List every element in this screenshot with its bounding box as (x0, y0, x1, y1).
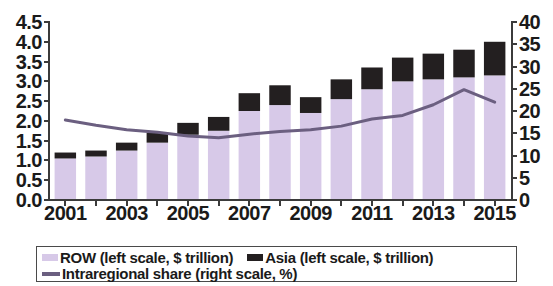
x-axis-tick-mark (279, 201, 281, 206)
x-axis-tick-mark (187, 201, 189, 206)
bar-segment-asia (55, 153, 76, 159)
right-axis-tick-label: 15 (519, 123, 540, 143)
bar-segment-asia (300, 97, 321, 113)
right-axis-tick-label: 5 (519, 168, 530, 188)
bar-segment-asia (392, 58, 413, 82)
x-axis-tick-mark (248, 201, 250, 206)
left-axis-tick-label: 4.0 (16, 32, 42, 52)
x-axis-tick-mark (432, 201, 434, 206)
bar-segment-asia (85, 151, 106, 157)
right-axis-tick-mark (511, 21, 517, 23)
chart-container: 0.00.51.01.52.02.53.03.54.04.5 051015202… (0, 0, 553, 286)
bar-segment-row (392, 81, 413, 200)
x-axis-tick-mark (126, 201, 128, 206)
plot-area (50, 22, 510, 200)
x-axis-tick-mark (371, 201, 373, 206)
legend-label-row: ROW (left scale, $ trillion) (60, 249, 233, 266)
right-axis-tick-mark (511, 132, 517, 134)
left-axis-tick-label: 1.0 (16, 150, 42, 170)
right-axis-tick-mark (511, 155, 517, 157)
bar-segment-asia (423, 54, 444, 80)
bar-segment-asia (116, 143, 137, 151)
bar-segment-row (269, 105, 290, 200)
legend-row-secondary: Intraregional share (right scale, %) (42, 265, 311, 282)
bar-segment-asia (239, 93, 260, 111)
legend-row-primary: ROW (left scale, $ trillion) Asia (left … (42, 249, 447, 266)
right-axis-tick-label: 20 (519, 101, 540, 121)
legend-label-intraregional: Intraregional share (right scale, %) (62, 265, 297, 282)
right-axis-tick-mark (511, 66, 517, 68)
left-axis-tick-label: 0.5 (16, 170, 42, 190)
bar-segment-row (208, 131, 229, 200)
bar-segment-asia (453, 50, 474, 78)
legend-entry-intraregional: Intraregional share (right scale, %) (42, 265, 297, 282)
bar-segment-asia (208, 117, 229, 131)
x-axis-tick-mark (402, 201, 404, 206)
x-axis-tick-mark (95, 201, 97, 206)
legend-entry-asia: Asia (left scale, $ trillion) (247, 249, 433, 266)
x-axis-tick-mark (156, 201, 158, 206)
bar-segment-row (177, 135, 198, 200)
left-axis-tick-label: 2.0 (16, 111, 42, 131)
bar-segment-row (484, 75, 505, 200)
bar-segment-row (453, 77, 474, 200)
x-axis-tick-mark (340, 201, 342, 206)
bar-segment-asia (177, 123, 198, 135)
chart-legend: ROW (left scale, $ trillion) Asia (left … (36, 246, 517, 282)
left-axis-tick-label: 3.0 (16, 71, 42, 91)
bar-segment-row (116, 151, 137, 200)
right-axis-tick-mark (511, 43, 517, 45)
right-axis-line (511, 22, 517, 200)
right-axis-tick-mark (511, 88, 517, 90)
bar-segment-row (300, 113, 321, 200)
bar-segment-row (147, 143, 168, 200)
plot-svg (50, 22, 510, 200)
bar-segment-row (55, 158, 76, 200)
bar-segment-row (423, 79, 444, 200)
right-axis-tick-label: 25 (519, 79, 540, 99)
bar-segment-row (331, 99, 352, 200)
x-axis-tick-mark (310, 201, 312, 206)
right-axis-tick-labels: 0510152025303540 (519, 0, 553, 215)
bar-segment-row (239, 111, 260, 200)
legend-label-asia: Asia (left scale, $ trillion) (265, 249, 433, 266)
legend-swatch-asia-icon (247, 254, 263, 261)
left-axis-tick-label: 3.5 (16, 52, 42, 72)
right-axis-tick-label: 30 (519, 57, 540, 77)
right-axis-tick-mark (511, 177, 517, 179)
right-axis-tick-label: 10 (519, 146, 540, 166)
bar-segment-row (361, 89, 382, 200)
left-axis-tick-labels: 0.00.51.01.52.02.53.03.54.04.5 (0, 0, 42, 215)
right-axis-tick-mark (511, 110, 517, 112)
bar-segment-asia (484, 42, 505, 76)
x-axis-tick-mark (218, 201, 220, 206)
x-axis-tick-mark (494, 201, 496, 206)
left-axis-tick-label: 1.5 (16, 131, 42, 151)
legend-swatch-line-icon (42, 272, 60, 276)
bar-segment-asia (361, 67, 382, 89)
bar-segment-asia (331, 79, 352, 99)
right-axis-tick-label: 35 (519, 34, 540, 54)
right-axis-tick-label: 40 (519, 12, 540, 32)
bar-segment-asia (269, 85, 290, 105)
x-axis-tick-mark (463, 201, 465, 206)
x-axis-tick-labels: 20012003200520072009201120132015 (0, 198, 553, 226)
left-axis-tick-label: 2.5 (16, 91, 42, 111)
bar-segment-row (85, 156, 106, 200)
legend-entry-row: ROW (left scale, $ trillion) (42, 249, 233, 266)
x-axis-tick-mark (64, 201, 66, 206)
legend-swatch-row-icon (42, 254, 58, 261)
left-axis-tick-label: 4.5 (16, 12, 42, 32)
